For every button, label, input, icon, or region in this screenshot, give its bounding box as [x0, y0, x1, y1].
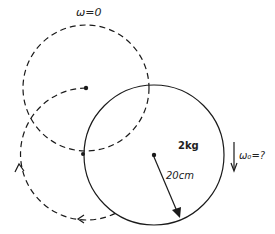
omega-unknown-label: ω₀=? — [239, 150, 265, 161]
radius-arrowhead-icon — [172, 207, 181, 218]
trajectory-arrow-icon — [78, 215, 84, 223]
contact-point-dot — [81, 152, 85, 156]
diagram-canvas — [0, 0, 275, 234]
trajectory-dashed-arc — [21, 88, 118, 220]
omega-zero-label: ω=0 — [76, 6, 101, 19]
disk-center-dot — [152, 153, 156, 157]
trajectory-arrow-icon — [15, 164, 24, 172]
radius-arrow — [154, 157, 179, 216]
radius-label: 20cm — [166, 170, 194, 181]
mass-label: 2kg — [178, 140, 199, 151]
